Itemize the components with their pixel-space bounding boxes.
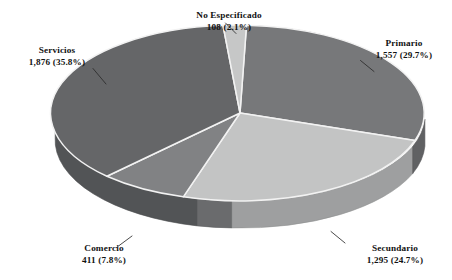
label-secundario: Secundario 1,295 (24.7%) xyxy=(367,243,423,267)
leader-line-secundario xyxy=(331,232,345,244)
label-secundario-value: 1,295 (24.7%) xyxy=(367,255,423,267)
label-comercio-value: 411 (7.8%) xyxy=(82,255,126,267)
pie-top-face xyxy=(51,25,425,201)
label-no-especificado-name: No Especificado xyxy=(196,10,261,22)
label-no-especificado-value: 108 (2.1%) xyxy=(196,22,261,34)
slice-side-comercio xyxy=(198,199,233,228)
label-servicios-name: Servicios xyxy=(29,45,85,57)
label-primario-value: 1,557 (29.7%) xyxy=(376,50,432,62)
label-comercio: Comercio 411 (7.8%) xyxy=(82,243,126,267)
label-servicios-value: 1,876 (35.8%) xyxy=(29,57,85,69)
label-servicios: Servicios 1,876 (35.8%) xyxy=(29,45,85,69)
label-primario: Primario 1,557 (29.7%) xyxy=(376,38,432,62)
label-comercio-name: Comercio xyxy=(82,243,126,255)
pie-chart-figure: No Especificado 108 (2.1%) Primario 1,55… xyxy=(0,0,452,280)
label-secundario-name: Secundario xyxy=(367,243,423,255)
label-no-especificado: No Especificado 108 (2.1%) xyxy=(196,10,261,34)
label-primario-name: Primario xyxy=(376,38,432,50)
